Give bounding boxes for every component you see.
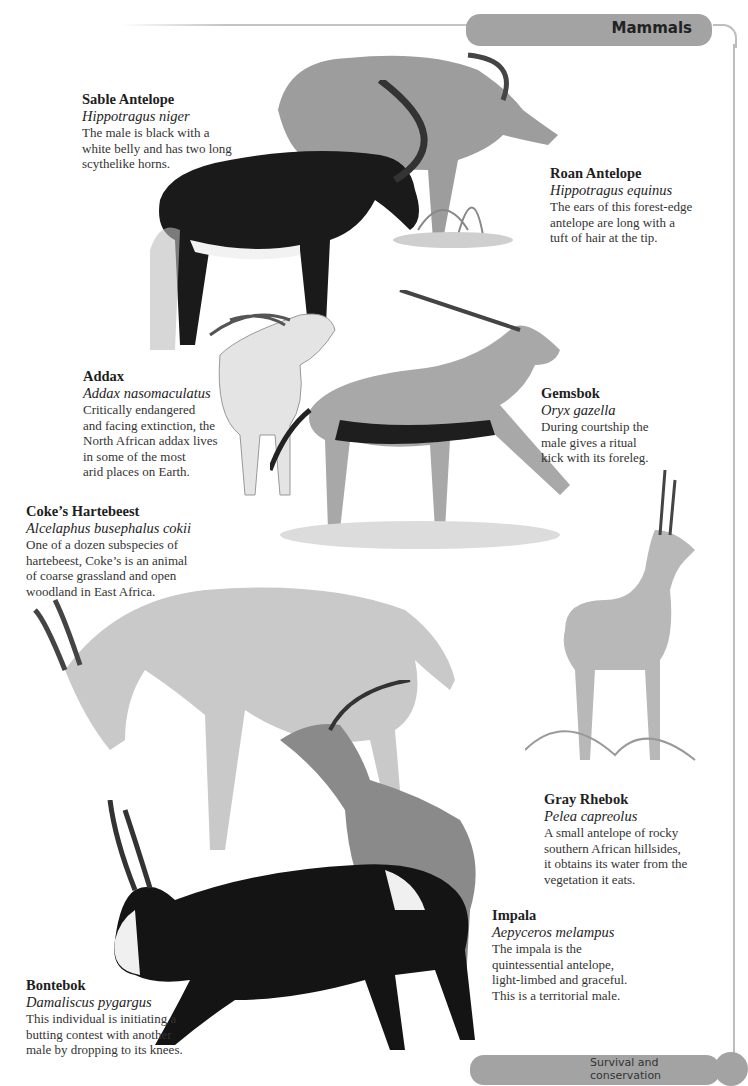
description: Critically endangered and facing extinct… xyxy=(83,402,233,480)
common-name: Bontebok xyxy=(26,977,226,994)
caption-impala: Impala Aepyceros melampus The impala is … xyxy=(492,907,662,1003)
latin-name: Alcelaphus busephalus cokii xyxy=(26,520,246,537)
footer-tab: Survival and conservation xyxy=(470,1055,720,1085)
right-rule xyxy=(733,44,735,1054)
common-name: Gemsbok xyxy=(541,385,691,402)
common-name: Coke’s Hartebeest xyxy=(26,503,246,520)
caption-cokes-hartebeest: Coke’s Hartebeest Alcelaphus busephalus … xyxy=(26,503,246,599)
description: During courtship the male gives a ritual… xyxy=(541,419,691,466)
caption-gray-rhebok: Gray Rhebok Pelea capreolus A small ante… xyxy=(544,791,724,887)
latin-name: Addax nasomaculatus xyxy=(83,385,233,402)
common-name: Sable Antelope xyxy=(82,91,272,108)
latin-name: Aepyceros melampus xyxy=(492,924,662,941)
description: A small antelope of rocky southern Afric… xyxy=(544,825,724,887)
description: The male is black with a white belly and… xyxy=(82,125,272,172)
description: One of a dozen subspecies of hartebeest,… xyxy=(26,537,246,599)
common-name: Addax xyxy=(83,368,233,385)
description: The ears of this forest-edge antelope ar… xyxy=(550,199,730,246)
common-name: Roan Antelope xyxy=(550,165,730,182)
caption-addax: Addax Addax nasomaculatus Critically end… xyxy=(83,368,233,480)
caption-sable-antelope: Sable Antelope Hippotragus niger The mal… xyxy=(82,91,272,172)
footer-text: Survival and conservation xyxy=(590,1056,720,1082)
latin-name: Hippotragus niger xyxy=(82,108,272,125)
section-title: Mammals xyxy=(611,19,692,37)
top-rule xyxy=(120,24,470,26)
caption-roan-antelope: Roan Antelope Hippotragus equinus The ea… xyxy=(550,165,730,246)
latin-name: Oryx gazella xyxy=(541,402,691,419)
common-name: Gray Rhebok xyxy=(544,791,724,808)
caption-bontebok: Bontebok Damaliscus pygargus This indivi… xyxy=(26,977,226,1058)
latin-name: Hippotragus equinus xyxy=(550,182,730,199)
latin-name: Damaliscus pygargus xyxy=(26,994,226,1011)
latin-name: Pelea capreolus xyxy=(544,808,724,825)
common-name: Impala xyxy=(492,907,662,924)
description: This individual is initiating a butting … xyxy=(26,1011,226,1058)
caption-gemsbok: Gemsbok Oryx gazella During courtship th… xyxy=(541,385,691,466)
gray-rhebok-illustration xyxy=(525,460,705,780)
description: The impala is the quintessential antelop… xyxy=(492,941,662,1003)
page-number-circle xyxy=(714,1052,748,1086)
